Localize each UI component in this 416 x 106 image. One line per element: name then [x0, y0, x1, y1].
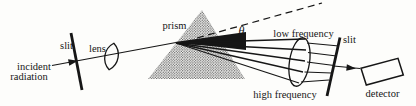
- label-low-frequency: low frequency: [273, 28, 334, 39]
- detector-box: [361, 58, 403, 85]
- label-prism: prism: [163, 20, 187, 31]
- spectrometer-figure: incident radiation slit lens prism θ low…: [0, 0, 416, 106]
- converging-ray-2: [308, 53, 337, 57]
- converging-ray-4: [305, 72, 332, 73]
- label-high-frequency: high frequency: [253, 89, 317, 100]
- label-lens: lens: [89, 43, 106, 54]
- converging-ray-5: [301, 80, 329, 82]
- label-theta-angle: θ: [239, 24, 245, 38]
- label-incident-radiation-line2: radiation: [10, 71, 48, 82]
- label-detector: detector: [366, 88, 400, 99]
- spectrometer-diagram-canvas: incident radiation slit lens prism θ low…: [0, 0, 416, 106]
- converging-ray-3: [307, 62, 334, 66]
- detector-beam-arrowhead-icon: [346, 64, 356, 72]
- label-exit-slit: slit: [343, 34, 356, 45]
- label-entrance-slit: slit: [60, 40, 73, 51]
- converging-ray-1: [307, 43, 339, 46]
